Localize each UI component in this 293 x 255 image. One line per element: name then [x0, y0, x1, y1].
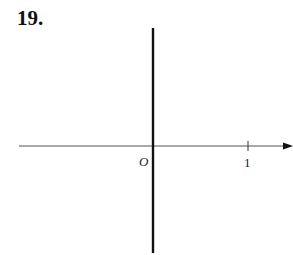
x-tick-label: 1 [244, 155, 251, 170]
coordinate-plane: O 1 [0, 0, 293, 255]
x-axis-arrow-icon [283, 143, 293, 150]
origin-label: O [139, 154, 149, 169]
